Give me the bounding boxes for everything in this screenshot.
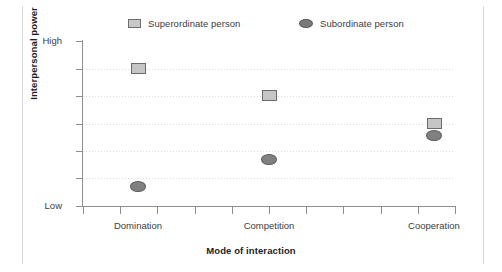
data-point-subordinate-cooperation [426, 130, 442, 141]
y-tick-label-low: Low [45, 200, 62, 211]
data-point-subordinate-domination [130, 181, 146, 192]
y-axis-tick [76, 41, 83, 42]
x-category-label-domination: Domination [114, 220, 162, 231]
ellipse-marker-icon [299, 19, 313, 28]
gridline-horizontal [83, 124, 455, 125]
y-tick-label-high: High [42, 35, 62, 46]
x-axis-title: Mode of interaction [0, 245, 502, 256]
data-point-superordinate-domination [131, 63, 146, 74]
y-axis-tick [76, 96, 83, 97]
chart-legend: Superordinate person Subordinate person [128, 14, 458, 32]
legend-item-subordinate: Subordinate person [299, 14, 404, 32]
x-axis-tick [381, 207, 382, 214]
x-axis-tick [120, 207, 121, 214]
gridline-horizontal [83, 151, 455, 152]
plot-area [83, 41, 455, 206]
x-axis-tick [157, 207, 158, 214]
x-axis-tick [195, 207, 196, 214]
x-axis-tick [343, 207, 344, 214]
y-axis-tick [76, 69, 83, 70]
y-axis-tick [76, 178, 83, 179]
y-axis-tick [76, 206, 83, 207]
y-axis-tick [76, 151, 83, 152]
figure-right-rule [483, 6, 484, 264]
legend-item-superordinate: Superordinate person [128, 14, 240, 32]
x-axis-tick [232, 207, 233, 214]
x-category-label-competition: Competition [244, 220, 295, 231]
y-axis-tick [76, 124, 83, 125]
x-axis-tick [418, 207, 419, 214]
legend-label-superordinate: Superordinate person [148, 18, 240, 29]
y-axis-title: Interpersonal power [28, 0, 39, 119]
gridline-horizontal [83, 178, 455, 179]
data-point-superordinate-cooperation [427, 118, 442, 129]
x-category-label-cooperation: Cooperation [408, 220, 460, 231]
x-axis-tick [455, 207, 456, 214]
figure-left-rule [22, 6, 23, 264]
chart-figure: Superordinate person Subordinate person … [0, 0, 502, 272]
legend-label-subordinate: Subordinate person [320, 18, 404, 29]
data-point-subordinate-competition [261, 154, 277, 165]
x-axis-tick [83, 207, 84, 214]
data-point-superordinate-competition [262, 90, 277, 101]
x-axis-tick [269, 207, 270, 214]
x-axis-tick [306, 207, 307, 214]
square-marker-icon [128, 19, 141, 28]
